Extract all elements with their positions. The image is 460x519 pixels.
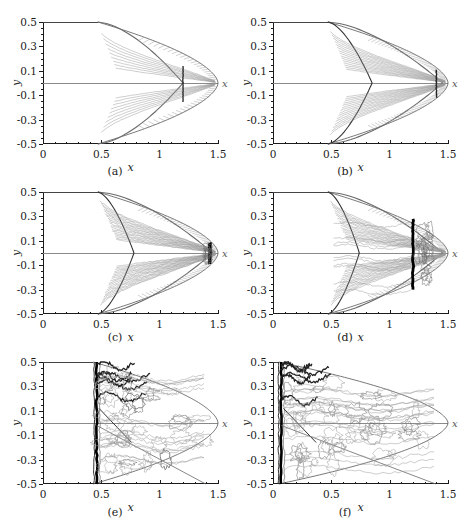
x-tick-label: 1 — [386, 488, 393, 500]
x-major-tick — [218, 140, 219, 144]
y-major-tick — [39, 144, 43, 145]
contour-lines — [43, 22, 218, 144]
y-tick-label: 0.5 — [250, 186, 267, 198]
x-tick-label: 1 — [156, 318, 163, 330]
y-tick-label: 0.5 — [20, 16, 37, 28]
x-axis-title-right: x — [222, 418, 228, 429]
plot-panel-f: 0.50.30.1-0.1-0.3-0.500.511.5xyx(f) — [230, 348, 460, 519]
y-tick-label: -0.3 — [17, 454, 37, 466]
y-tick-label: 0.1 — [20, 405, 37, 417]
x-major-tick — [448, 480, 449, 484]
y-tick-label: 0.5 — [20, 356, 37, 368]
x-tick-label: 1.5 — [440, 488, 457, 500]
y-tick-label: 0.5 — [250, 356, 267, 368]
x-tick-label: 0 — [40, 148, 47, 160]
y-tick-label: 0.1 — [20, 235, 37, 247]
x-axis-title-right: x — [222, 78, 228, 89]
contour-lines — [273, 192, 448, 314]
x-tick-label: 1 — [156, 488, 163, 500]
y-axis-title: y — [10, 420, 23, 426]
x-tick-label: 1 — [386, 148, 393, 160]
plot-area: 0.50.30.1-0.1-0.3-0.500.511.5xyx — [273, 22, 448, 144]
x-tick-label: 0.5 — [323, 488, 340, 500]
x-axis-title: x — [127, 501, 133, 514]
y-tick-label: -0.1 — [247, 429, 267, 441]
y-tick-label: -0.1 — [17, 89, 37, 101]
x-tick-label: 0.5 — [93, 318, 110, 330]
y-tick-label: -0.5 — [247, 138, 267, 150]
x-tick-label: 1.5 — [440, 318, 457, 330]
contour-lines — [43, 362, 218, 484]
y-tick-label: -0.1 — [17, 429, 37, 441]
y-tick-label: -0.5 — [247, 308, 267, 320]
y-tick-label: -0.5 — [17, 138, 37, 150]
y-axis-title: y — [10, 80, 23, 86]
x-tick-label: 1 — [156, 148, 163, 160]
y-tick-label: 0.1 — [250, 65, 267, 77]
x-major-tick — [218, 310, 219, 314]
plot-panel-d: 0.50.30.1-0.1-0.3-0.500.511.5xyx(d) — [230, 178, 460, 348]
figure-root: 0.50.30.1-0.1-0.3-0.500.511.5xyx(a)0.50.… — [0, 0, 460, 519]
y-tick-label: -0.3 — [247, 114, 267, 126]
x-axis-title-right: x — [452, 248, 458, 259]
plot-panel-b: 0.50.30.1-0.1-0.3-0.500.511.5xyx(b) — [230, 8, 460, 182]
panel-caption: (f) — [339, 506, 352, 519]
y-tick-label: 0.5 — [250, 16, 267, 28]
plot-area: 0.50.30.1-0.1-0.3-0.500.511.5xyx — [273, 192, 448, 314]
y-tick-label: -0.1 — [247, 89, 267, 101]
contour-lines — [43, 192, 218, 314]
plot-area: 0.50.30.1-0.1-0.3-0.500.511.5xyx — [273, 362, 448, 484]
plot-area: 0.50.30.1-0.1-0.3-0.500.511.5xyx — [43, 192, 218, 314]
y-tick-label: -0.5 — [17, 478, 37, 490]
y-tick-label: -0.1 — [247, 259, 267, 271]
x-tick-label: 0 — [40, 488, 47, 500]
y-tick-label: 0.3 — [20, 210, 37, 222]
panel-caption: (e) — [107, 506, 122, 519]
x-tick-label: 0.5 — [323, 148, 340, 160]
y-tick-label: -0.5 — [247, 478, 267, 490]
x-axis-title: x — [357, 501, 363, 514]
x-tick-label: 0 — [270, 318, 277, 330]
x-tick-label: 0 — [270, 488, 277, 500]
plot-area: 0.50.30.1-0.1-0.3-0.500.511.5xyx — [43, 22, 218, 144]
y-tick-label: 0.5 — [20, 186, 37, 198]
y-axis-title: y — [10, 250, 23, 256]
y-tick-label: 0.1 — [250, 405, 267, 417]
x-major-tick — [218, 480, 219, 484]
x-tick-label: 0 — [40, 318, 47, 330]
y-major-tick — [269, 484, 273, 485]
panel-caption: (d) — [337, 331, 353, 344]
x-axis-title-right: x — [452, 78, 458, 89]
y-tick-label: -0.3 — [247, 454, 267, 466]
x-tick-label: 1.5 — [210, 488, 227, 500]
y-axis-title: y — [240, 80, 253, 86]
x-major-tick — [448, 140, 449, 144]
plot-panel-c: 0.50.30.1-0.1-0.3-0.500.511.5xyx(c) — [0, 178, 230, 348]
y-tick-label: -0.3 — [17, 284, 37, 296]
x-major-tick — [448, 310, 449, 314]
contour-lines — [273, 22, 448, 144]
x-axis-title: x — [357, 161, 363, 174]
y-tick-label: 0.3 — [250, 380, 267, 392]
panel-caption: (c) — [108, 331, 123, 344]
x-tick-label: 1.5 — [210, 148, 227, 160]
y-tick-label: -0.3 — [247, 284, 267, 296]
x-axis-title-right: x — [452, 418, 458, 429]
x-axis-title-right: x — [222, 248, 228, 259]
y-axis-title: y — [240, 420, 253, 426]
plot-panel-a: 0.50.30.1-0.1-0.3-0.500.511.5xyx(a) — [0, 8, 230, 182]
y-tick-label: 0.1 — [250, 235, 267, 247]
x-tick-label: 1 — [386, 318, 393, 330]
panel-caption: (a) — [107, 165, 122, 178]
y-major-tick — [269, 144, 273, 145]
panel-caption: (b) — [337, 165, 353, 178]
y-tick-label: 0.1 — [20, 65, 37, 77]
y-major-tick — [39, 314, 43, 315]
y-tick-label: 0.3 — [20, 40, 37, 52]
y-major-tick — [269, 314, 273, 315]
plot-panel-e: 0.50.30.1-0.1-0.3-0.500.511.5xyx(e) — [0, 348, 230, 519]
y-tick-label: 0.3 — [250, 40, 267, 52]
x-tick-label: 1.5 — [440, 148, 457, 160]
y-tick-label: -0.5 — [17, 308, 37, 320]
y-tick-label: -0.1 — [17, 259, 37, 271]
